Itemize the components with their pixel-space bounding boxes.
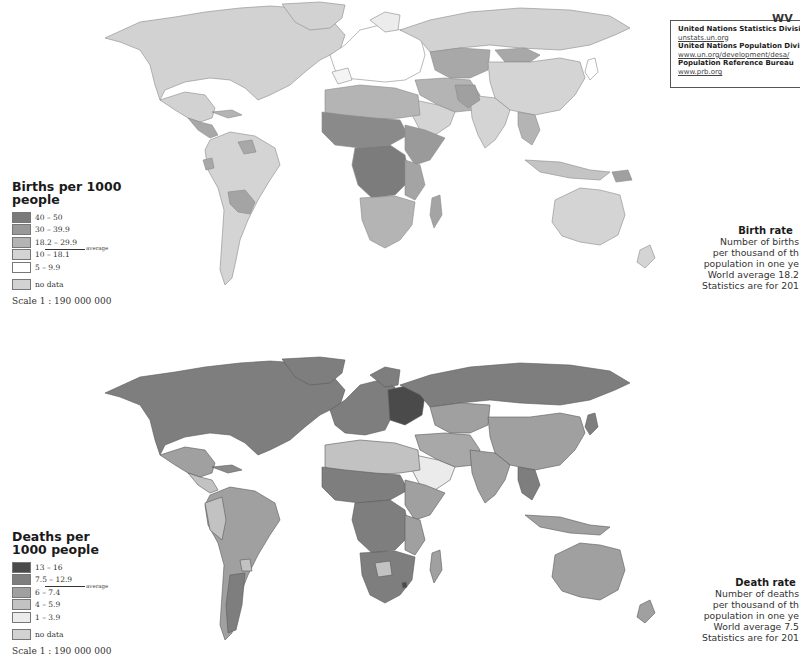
region-paraguay <box>240 559 252 571</box>
region-australia <box>552 543 625 600</box>
region-iberia <box>332 68 352 84</box>
average-label: average <box>86 583 108 589</box>
legend-classes: 13 – 16 7.5 – 12.9 6 – 7.4 4 – 5.9 1 – 3… <box>12 561 122 624</box>
region-central-africa <box>352 145 410 198</box>
legend-swatch <box>12 562 31 573</box>
info-line: World average 18.2 <box>702 269 799 280</box>
region-new-zealand <box>637 245 655 268</box>
region-australia <box>552 188 625 245</box>
region-botswana <box>375 561 392 577</box>
map-scale: Scale 1 : 190 000 000 <box>12 296 122 306</box>
region-madagascar <box>430 550 442 583</box>
legend-title: Deaths per 1000 people <box>12 530 122 556</box>
region-southern-africa <box>360 196 415 248</box>
region-japan <box>585 58 598 80</box>
legend-no-data: no data <box>12 629 122 642</box>
birth-rate-legend: Births per 1000 people 40 – 50 30 – 39.9… <box>12 180 122 306</box>
region-peru-colombia <box>205 497 226 540</box>
region-papua <box>612 170 632 182</box>
legend-label: 6 – 7.4 <box>35 588 60 597</box>
legend-label: 5 – 9.9 <box>35 263 60 272</box>
info-line: Statistics are for 201 <box>702 280 799 291</box>
region-central-africa <box>352 500 410 553</box>
region-mongolia <box>495 48 540 62</box>
legend-label: 18.2 – 29.9 <box>35 238 77 247</box>
info-line: population in one ye <box>702 610 799 621</box>
birth-rate-panel: United Nations Statistics Divisic unstat… <box>0 0 793 335</box>
region-east-africa <box>405 160 425 200</box>
info-line: per thousand of th <box>702 247 799 258</box>
source-org-un-stats: United Nations Statistics Divisic <box>678 25 800 34</box>
info-line: Statistics are for 201 <box>702 632 799 643</box>
region-caribbean <box>212 110 242 118</box>
legend-label: 4 – 5.9 <box>35 600 60 609</box>
region-central-asia <box>430 403 490 433</box>
legend-label: no data <box>35 280 64 289</box>
legend-label: 30 – 39.9 <box>35 225 70 234</box>
birth-rate-info: Birth rate Number of births per thousand… <box>702 225 799 291</box>
legend-label: 10 – 18.1 <box>35 250 70 259</box>
legend-class: 13 – 16 <box>12 561 122 574</box>
region-russia <box>400 363 630 407</box>
info-title: Birth rate <box>702 225 799 236</box>
legend-swatch <box>12 587 31 598</box>
region-east-africa <box>405 515 425 555</box>
region-japan <box>585 413 598 435</box>
legend-class: 30 – 39.9 <box>12 224 122 237</box>
info-line: population in one ye <box>702 258 799 269</box>
info-line: Number of births <box>702 236 799 247</box>
legend-class: 5 – 9.9 <box>12 261 122 274</box>
death-rate-legend: Deaths per 1000 people 13 – 16 7.5 – 12.… <box>12 530 122 656</box>
legend-class: 4 – 5.9 <box>12 599 122 612</box>
region-indonesia <box>525 515 610 535</box>
region-southeast-asia <box>518 112 540 145</box>
legend-swatch <box>12 599 31 610</box>
source-org-prb: Population Reference Bureau <box>678 59 800 68</box>
region-argentina <box>226 573 245 633</box>
region-lesotho <box>402 582 407 588</box>
legend-swatch <box>12 249 31 260</box>
legend-label: 1 – 3.9 <box>35 613 60 622</box>
source-link-un-population[interactable]: www.un.org/development/desa/ <box>678 51 800 60</box>
legend-classes: 40 – 50 30 – 39.9 18.2 – 29.9 10 – 18.1 … <box>12 211 122 274</box>
legend-label: 40 – 50 <box>35 213 63 222</box>
region-mexico <box>160 447 215 477</box>
region-indonesia <box>525 160 610 180</box>
legend-title: Births per 1000 people <box>12 180 122 206</box>
legend-swatch <box>12 262 31 273</box>
legend-no-data: no data <box>12 279 122 292</box>
publisher-logo: WV <box>772 12 793 25</box>
legend-label: 13 – 16 <box>35 563 63 572</box>
legend-label: 7.5 – 12.9 <box>35 575 72 584</box>
legend-swatch <box>12 224 31 235</box>
average-divider <box>45 586 85 587</box>
source-link-prb[interactable]: www.prb.org <box>678 68 800 77</box>
region-russia <box>400 8 630 52</box>
legend-label: no data <box>35 630 64 639</box>
region-southern-africa <box>360 551 415 603</box>
average-divider <box>45 249 85 250</box>
legend-swatch <box>12 574 31 585</box>
info-line: per thousand of th <box>702 599 799 610</box>
legend-swatch <box>12 629 31 640</box>
legend-swatch <box>12 279 31 290</box>
legend-swatch <box>12 237 31 248</box>
region-madagascar <box>430 195 442 228</box>
info-line: Number of deaths <box>702 588 799 599</box>
average-label: average <box>86 245 108 251</box>
region-caribbean <box>212 465 242 473</box>
source-link-un-stats[interactable]: unstats.un.org <box>678 34 800 43</box>
region-southeast-asia <box>518 467 540 500</box>
legend-class: 1 – 3.9 <box>12 611 122 624</box>
info-title: Death rate <box>702 577 799 588</box>
source-org-un-population: United Nations Population Divisi <box>678 42 800 51</box>
map-scale: Scale 1 : 190 000 000 <box>12 646 122 656</box>
region-new-zealand <box>637 600 655 623</box>
legend-swatch <box>12 212 31 223</box>
region-ecuador <box>203 158 214 170</box>
death-rate-info: Death rate Number of deaths per thousand… <box>702 577 799 643</box>
death-rate-panel: Deaths per 1000 people 13 – 16 7.5 – 12.… <box>0 335 793 670</box>
legend-swatch <box>12 612 31 623</box>
legend-class: 40 – 50 <box>12 211 122 224</box>
region-central-asia <box>430 48 490 78</box>
